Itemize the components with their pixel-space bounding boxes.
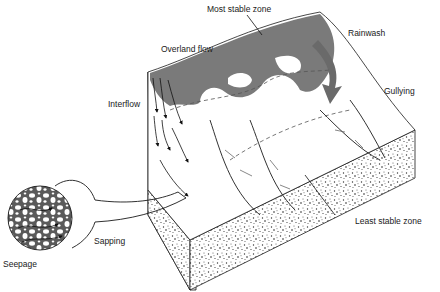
hillslope-block-diagram (0, 0, 440, 292)
label-gullying: Gullying (384, 86, 415, 96)
label-seepage: Seepage (3, 259, 37, 269)
label-rainwash: Rainwash (348, 28, 385, 38)
label-overland-flow: Overland flow (161, 44, 213, 54)
label-sapping: Sapping (94, 236, 125, 246)
label-most-stable-zone: Most stable zone (207, 4, 271, 14)
label-interflow: Interflow (108, 99, 140, 109)
label-least-stable-zone: Least stable zone (355, 216, 422, 226)
